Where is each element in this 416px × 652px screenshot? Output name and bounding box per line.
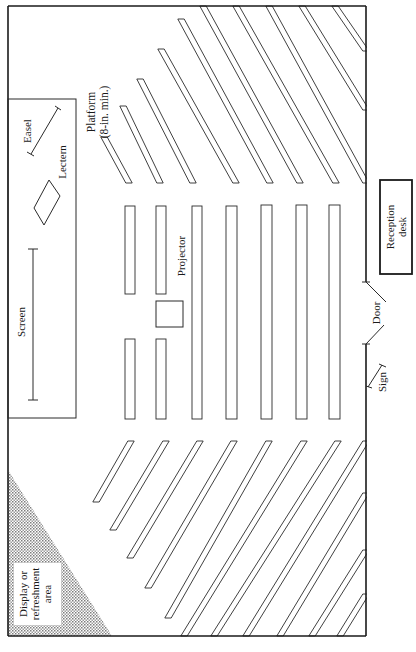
bench-row (337, 594, 369, 636)
bench-row (299, 6, 369, 110)
bench-row (127, 441, 203, 558)
seating-row (226, 206, 237, 419)
svg-text:(8-in. min.): (8-in. min.) (98, 85, 111, 138)
floor-plan: Display or refreshment area Platform (8-… (0, 0, 416, 652)
bench-row (332, 6, 369, 51)
easel-label: Easel (21, 119, 33, 143)
svg-text:area: area (41, 585, 53, 603)
seating-row (156, 339, 166, 419)
svg-text:Display or: Display or (17, 571, 29, 617)
svg-text:Platform: Platform (85, 92, 97, 132)
bench-row (93, 441, 134, 502)
svg-text:Reception: Reception (384, 204, 396, 249)
bench-row (101, 137, 132, 183)
seating-row (296, 205, 307, 419)
svg-text:desk: desk (396, 216, 408, 237)
projector-label: Projector (175, 236, 187, 277)
platform-label: Platform (8-in. min.) (85, 85, 111, 138)
seating-row (156, 206, 166, 294)
room-layout-diagram: Display or refreshment area Platform (8-… (0, 0, 416, 652)
lectern-icon (34, 180, 60, 225)
seating-row (329, 205, 340, 419)
seating-row (261, 205, 272, 419)
bench-row (211, 441, 341, 636)
top-diagonal-benches (101, 6, 369, 183)
seating-row (192, 206, 202, 419)
center-seating-rows (125, 205, 340, 419)
bottom-diagonal-benches (93, 441, 369, 636)
bench-row (158, 49, 239, 183)
bench-row (181, 441, 307, 636)
projector-icon (156, 301, 183, 327)
seating-row (125, 339, 135, 419)
lectern-label: Lectern (56, 145, 68, 179)
bench-row (309, 550, 369, 636)
screen-icon (28, 249, 38, 400)
door-label: Door (370, 301, 382, 324)
bench-row (243, 441, 369, 636)
seating-row (125, 206, 135, 294)
svg-text:refreshment: refreshment (29, 568, 41, 621)
sign-label: Sign (376, 371, 388, 392)
screen-label: Screen (15, 307, 27, 337)
bench-row (110, 441, 169, 530)
